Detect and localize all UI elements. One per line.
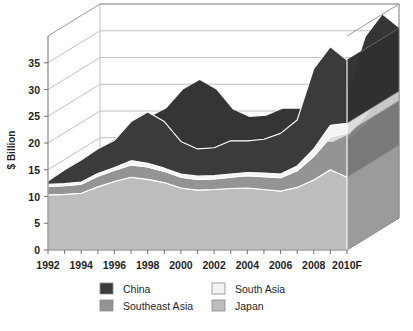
- x-axis-tick-label: 1994: [70, 259, 94, 271]
- y-axis-tick-label: 25: [28, 110, 40, 122]
- y-axis-tick-label: 0: [34, 244, 40, 256]
- legend-label: Japan: [235, 300, 264, 312]
- legend-label: South Asia: [235, 283, 285, 295]
- legend-swatch: [212, 300, 225, 311]
- legend-label: China: [123, 283, 151, 295]
- chart-legend: ChinaSouth AsiaSoutheast AsiaJapan: [100, 283, 285, 312]
- legend-swatch: [212, 283, 225, 294]
- x-axis-tick-label: 2010F: [332, 259, 362, 271]
- x-axis-tick-label: 2008: [302, 259, 326, 271]
- y-axis-tick-label: 10: [28, 191, 40, 203]
- x-axis-tick-label: 2000: [169, 259, 193, 271]
- x-axis-tick-label: 1992: [36, 259, 60, 271]
- y-axis-title: $ Billion: [6, 131, 17, 170]
- x-axis-tick-label: 2002: [202, 259, 226, 271]
- y-axis-tick-label: 5: [34, 217, 40, 229]
- x-axis-tick-label: 1996: [103, 259, 127, 271]
- y-axis-tick-labels: 05101520253035: [28, 57, 40, 256]
- y-axis-tick-label: 20: [28, 137, 40, 149]
- x-axis-tick-label: 1998: [136, 259, 160, 271]
- legend-swatch: [100, 283, 113, 294]
- area-chart: 05101520253035 1992199419961998200020022…: [0, 0, 413, 331]
- x-axis-tick-label: 2004: [236, 259, 260, 271]
- x-axis-tick-labels: 1992199419961998200020022004200620082010…: [36, 259, 362, 271]
- chart-figure: 05101520253035 1992199419961998200020022…: [0, 0, 413, 331]
- x-axis-tick-label: 2006: [269, 259, 293, 271]
- y-axis-tick-label: 35: [28, 57, 40, 69]
- y-axis-tick-label: 30: [28, 84, 40, 96]
- y-axis-tick-label: 15: [28, 164, 40, 176]
- legend-label: Southeast Asia: [123, 300, 193, 312]
- legend-swatch: [100, 300, 113, 311]
